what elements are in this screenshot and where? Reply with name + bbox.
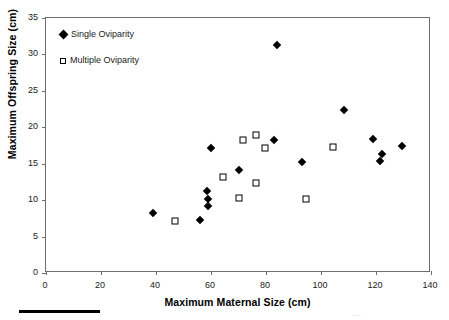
- x-axis-tick: [211, 271, 212, 275]
- legend-item: Multiple Oviparity: [60, 53, 139, 68]
- scan-artifact-text: ....: [352, 309, 446, 318]
- filled-diamond-icon: [59, 30, 69, 40]
- legend-item-label: Multiple Oviparity: [70, 56, 139, 65]
- data-point: [302, 196, 309, 203]
- y-axis-tick-label: 0: [12, 268, 38, 277]
- data-point: [270, 135, 278, 143]
- y-axis-tick-label: 30: [12, 49, 38, 58]
- y-axis-tick: [42, 237, 46, 238]
- data-point: [398, 142, 406, 150]
- x-axis-title: Maximum Maternal Size (cm): [45, 296, 430, 308]
- open-square-icon: [60, 58, 66, 64]
- data-point: [149, 209, 157, 217]
- data-point: [369, 135, 377, 143]
- x-axis-tick: [376, 271, 377, 275]
- data-point: [196, 216, 204, 224]
- x-axis-tick: [266, 271, 267, 275]
- y-axis-tick-label: 35: [12, 13, 38, 22]
- x-axis-tick: [321, 271, 322, 275]
- chart-legend: Single OviparityMultiple Oviparity: [60, 27, 139, 79]
- y-axis-tick: [42, 164, 46, 165]
- scatter-chart-figure: Maximum Offspring Size (cm) Maximum Mate…: [0, 0, 449, 320]
- data-point: [376, 157, 384, 165]
- x-axis-tick-label: 120: [360, 281, 390, 290]
- y-axis-tick-label: 20: [12, 122, 38, 131]
- y-axis-tick: [42, 18, 46, 19]
- y-axis-tick: [42, 200, 46, 201]
- data-point: [235, 194, 242, 201]
- data-point: [253, 131, 260, 138]
- data-point: [340, 106, 348, 114]
- x-axis-tick-label: 100: [305, 281, 335, 290]
- data-point: [207, 143, 215, 151]
- data-point: [253, 179, 260, 186]
- data-point: [330, 143, 337, 150]
- x-axis-tick-label: 20: [85, 281, 115, 290]
- legend-item-label: Single Oviparity: [71, 30, 134, 39]
- data-point: [220, 173, 227, 180]
- x-axis-tick-label: 0: [30, 281, 60, 290]
- x-axis-tick: [156, 271, 157, 275]
- data-point: [261, 144, 268, 151]
- y-axis-tick-label: 5: [12, 232, 38, 241]
- data-point: [234, 165, 242, 173]
- y-axis-tick-label: 25: [12, 86, 38, 95]
- data-point: [273, 41, 281, 49]
- caption-rule: [19, 310, 100, 313]
- y-axis-tick: [42, 54, 46, 55]
- y-axis-tick-label: 10: [12, 195, 38, 204]
- x-axis-tick-label: 140: [415, 281, 445, 290]
- y-axis-tick-label: 15: [12, 159, 38, 168]
- data-point: [239, 136, 246, 143]
- legend-item: Single Oviparity: [60, 27, 139, 42]
- x-axis-tick-label: 80: [250, 281, 280, 290]
- x-axis-tick: [431, 271, 432, 275]
- y-axis-tick: [42, 127, 46, 128]
- x-axis-tick-label: 60: [195, 281, 225, 290]
- x-axis-tick-label: 40: [140, 281, 170, 290]
- x-axis-tick: [101, 271, 102, 275]
- x-axis-tick: [46, 271, 47, 275]
- data-point: [203, 187, 211, 195]
- data-point: [172, 217, 179, 224]
- y-axis-tick: [42, 91, 46, 92]
- data-point: [298, 158, 306, 166]
- data-point: [204, 194, 212, 202]
